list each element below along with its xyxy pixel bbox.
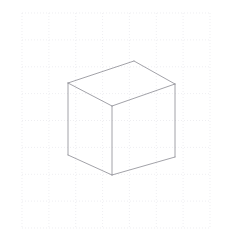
canvas-background xyxy=(0,0,231,233)
drawing-canvas: Isometric cube wireframe on dotted graph… xyxy=(0,0,231,233)
cube-figure-svg: Isometric cube wireframe on dotted graph… xyxy=(0,0,231,233)
